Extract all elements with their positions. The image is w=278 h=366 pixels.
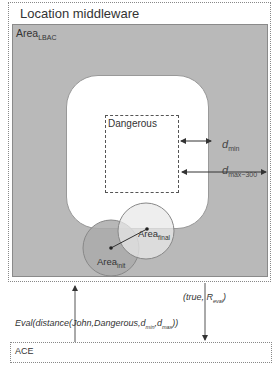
area-init-label: Areainit [97,256,125,269]
ace-label: ACE [15,346,34,356]
dmin-label: dmin [222,138,239,152]
request-label: Eval(distance(John,Dangerous,dmin,dmax)) [15,318,178,330]
diagram-overlay [0,0,278,366]
ace-box [10,342,272,363]
response-label: (true, Reval) [183,292,226,304]
dmax-label: dmax−300 [222,164,257,178]
area-final-label: Areafinal [138,228,170,241]
